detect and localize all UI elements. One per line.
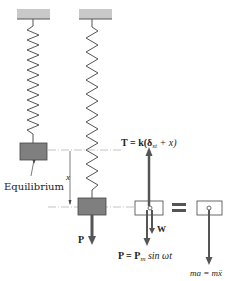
force-p-label: P xyxy=(78,234,84,245)
weight-arrowhead-icon xyxy=(149,228,155,234)
equals-sign xyxy=(172,203,186,212)
kinetic-center-point-icon xyxy=(207,206,211,210)
inertia-arrowhead-icon xyxy=(206,257,213,265)
force-p-arrowhead-icon xyxy=(88,236,96,245)
inertia-label: ma = mẍ xyxy=(190,268,222,278)
equilibrium-mass xyxy=(20,143,47,160)
center-point-icon xyxy=(148,206,152,210)
left-support xyxy=(17,9,50,19)
spring-mass-diagram: Equilibrium x P T = k(δst + x) W P = Pm … xyxy=(0,0,232,281)
x-arrowhead-icon xyxy=(69,200,72,205)
right-spring xyxy=(86,19,98,198)
free-body-p-arrowhead-icon xyxy=(144,238,151,246)
x-label: x xyxy=(65,172,70,182)
equilibrium-label: Equilibrium xyxy=(4,181,65,192)
pointer-head-icon xyxy=(33,160,36,164)
left-spring xyxy=(27,19,39,143)
displaced-mass xyxy=(78,198,106,215)
force-p-equation: P = Pm sin ωt xyxy=(118,250,172,263)
weight-label: W xyxy=(157,224,166,234)
right-support xyxy=(79,9,112,19)
